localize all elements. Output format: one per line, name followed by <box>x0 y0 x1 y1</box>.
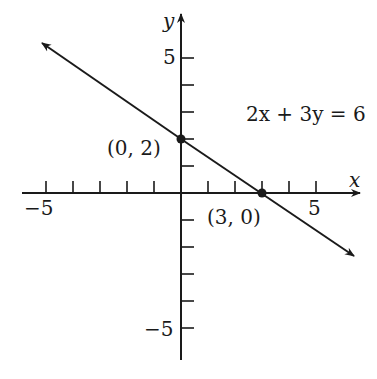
point-0-2 <box>177 135 186 144</box>
y-tick-label-neg5: −5 <box>144 317 173 341</box>
graph-line <box>181 139 354 256</box>
equation-label: 2x + 3y = 6 <box>246 102 366 126</box>
point-3-0 <box>258 189 267 198</box>
point-label-0-2: (0, 2) <box>107 136 161 160</box>
x-tick-label-neg5: −5 <box>24 196 53 220</box>
y-axis-label: y <box>162 9 175 33</box>
graph-canvas: y x 5 −5 −5 5 (0, 2) (3, 0) 2x + 3y = 6 <box>0 0 377 379</box>
x-tick-label-5: 5 <box>308 196 321 220</box>
point-label-3-0: (3, 0) <box>207 205 261 229</box>
graph-line <box>42 43 181 139</box>
y-tick-label-5: 5 <box>163 45 176 69</box>
x-axis-label: x <box>349 168 360 192</box>
